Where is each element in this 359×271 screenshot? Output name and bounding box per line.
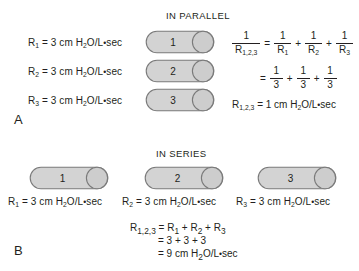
plus-sign: + bbox=[310, 73, 324, 84]
fraction-one-third-3: 1 3 bbox=[324, 66, 337, 90]
panel-b-letter: B bbox=[14, 243, 23, 258]
panel-a-resistance-label-1: R1 = 3 cm H2O/L•sec bbox=[28, 37, 122, 49]
fraction-numerator: 1 bbox=[324, 66, 336, 77]
figure-canvas: IN PARALLEL R1 = 3 cm H2O/L•sec R2 = 3 c… bbox=[0, 0, 359, 271]
r-unit-tail: O/L bbox=[67, 196, 83, 207]
panel-b-resistance-label-2: R2 = 3 cm H2O/L•sec bbox=[122, 196, 216, 208]
parallel-equation-line-2: = 1 3 + 1 3 + 1 3 bbox=[256, 66, 337, 90]
r-equals-value: = 3 cm H bbox=[39, 66, 83, 77]
series-tube-3: 3 bbox=[257, 166, 340, 190]
series-total-resistance-line-2: = 3 + 3 + 3 bbox=[158, 235, 206, 246]
r-equals-value: = 3 cm H bbox=[133, 196, 177, 207]
r-unit-sec: sec bbox=[106, 95, 122, 106]
panel-a-resistance-label-3: R3 = 3 cm H2O/L•sec bbox=[28, 95, 122, 107]
fraction-denominator: 3 bbox=[297, 80, 309, 91]
r-symbol: R bbox=[214, 222, 221, 233]
r-unit-sec: sec bbox=[314, 196, 330, 207]
fraction-denominator: R1 bbox=[274, 45, 291, 56]
fraction-r1: 1 R1 bbox=[274, 31, 291, 56]
r-subscript: 1 bbox=[284, 48, 288, 55]
r-subscript: 1,2,3 bbox=[239, 104, 254, 111]
r-unit-sec: sec bbox=[200, 196, 216, 207]
r-unit-sec: sec bbox=[106, 37, 122, 48]
equals-sign: = bbox=[256, 73, 270, 84]
r-unit-tail: O/L bbox=[181, 196, 197, 207]
equals-sign: = bbox=[260, 38, 274, 49]
fraction-total-resistance: 1 R1,2,3 bbox=[232, 31, 260, 56]
r-equals-value: = 3 cm H bbox=[39, 95, 83, 106]
parallel-tube-1: 1 bbox=[145, 30, 217, 54]
result-value: = 9 cm H bbox=[158, 248, 198, 259]
fraction-denominator: 3 bbox=[324, 80, 336, 91]
series-total-resistance-line-3: = 9 cm H2O/L•sec bbox=[158, 248, 238, 262]
panel-b-heading: IN SERIES bbox=[156, 148, 207, 159]
series-tube-1: 1 bbox=[29, 166, 112, 190]
panel-a-resistance-label-2: R2 = 3 cm H2O/L•sec bbox=[28, 66, 122, 78]
r-subscript: 2 bbox=[315, 48, 319, 55]
fraction-one-third-1: 1 3 bbox=[270, 66, 283, 90]
fraction-one-third-2: 1 3 bbox=[297, 66, 310, 90]
fraction-numerator: 1 bbox=[339, 31, 351, 42]
fraction-denominator: R1,2,3 bbox=[232, 45, 260, 56]
series-tube-2: 2 bbox=[144, 166, 227, 190]
plus-sign: + bbox=[179, 222, 190, 233]
parallel-equation-line-1: 1 R1,2,3 = 1 R1 + 1 R2 + 1 R3 bbox=[232, 31, 353, 56]
result-unit-tail: O/L bbox=[203, 248, 219, 259]
r-equals-value: = 3 cm H bbox=[19, 196, 63, 207]
fraction-r3: 1 R3 bbox=[336, 31, 353, 56]
panel-a-letter: A bbox=[14, 112, 23, 127]
panel-a-heading: IN PARALLEL bbox=[166, 10, 230, 21]
r-unit-tail: O/L bbox=[87, 66, 103, 77]
r-subscript: 1,2,3 bbox=[242, 48, 257, 55]
result-unit-sec: sec bbox=[320, 99, 336, 110]
r-subscript: 3 bbox=[346, 48, 350, 55]
result-unit-tail: O/L bbox=[301, 99, 317, 110]
r-unit-sec: sec bbox=[86, 196, 102, 207]
r-unit-tail: O/L bbox=[87, 37, 103, 48]
plus-sign: + bbox=[291, 38, 305, 49]
fraction-r2: 1 R2 bbox=[305, 31, 322, 56]
fraction-numerator: 1 bbox=[277, 31, 289, 42]
r-subscript: 1,2,3 bbox=[137, 226, 156, 236]
fraction-denominator: 3 bbox=[271, 80, 283, 91]
r-unit-tail: O/L bbox=[295, 196, 311, 207]
plus-sign: + bbox=[202, 222, 213, 233]
parallel-total-resistance-result: R1,2,3 = 1 cm H2O/L•sec bbox=[232, 99, 336, 111]
result-unit-sec: sec bbox=[222, 248, 238, 259]
plus-sign: + bbox=[322, 38, 336, 49]
fraction-denominator: R3 bbox=[336, 45, 353, 56]
fraction-numerator: 1 bbox=[297, 66, 309, 77]
series-total-resistance-line-1: R1,2,3 = R1 + R2 + R3 bbox=[130, 222, 226, 236]
panel-b-resistance-label-1: R1 = 3 cm H2O/L•sec bbox=[8, 196, 102, 208]
result-value: = 1 cm H bbox=[254, 99, 297, 110]
parallel-tube-3: 3 bbox=[145, 88, 217, 112]
panel-b-resistance-label-3: R3 = 3 cm H2O/L•sec bbox=[236, 196, 330, 208]
equals-sign: = bbox=[156, 222, 167, 233]
fraction-numerator: 1 bbox=[271, 66, 283, 77]
fraction-numerator: 1 bbox=[240, 31, 252, 42]
r-unit-sec: sec bbox=[106, 66, 122, 77]
fraction-denominator: R2 bbox=[305, 45, 322, 56]
r-unit-tail: O/L bbox=[87, 95, 103, 106]
r-equals-value: = 3 cm H bbox=[39, 37, 83, 48]
parallel-tube-2: 2 bbox=[145, 59, 217, 83]
r-subscript: 3 bbox=[221, 226, 226, 236]
fraction-numerator: 1 bbox=[308, 31, 320, 42]
plus-sign: + bbox=[283, 73, 297, 84]
r-symbol: R bbox=[190, 222, 197, 233]
r-equals-value: = 3 cm H bbox=[247, 196, 291, 207]
